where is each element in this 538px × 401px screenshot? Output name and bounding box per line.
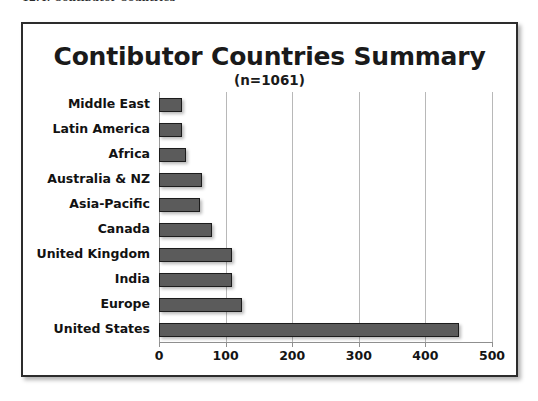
x-tick-label: 300 [346, 350, 372, 363]
x-tick-label: 100 [213, 350, 239, 363]
bar-category-label: United Kingdom [37, 248, 150, 261]
bar-category-label: Australia & NZ [47, 173, 150, 186]
bar-row: Middle East [159, 92, 492, 117]
bar [159, 123, 182, 137]
x-tick-mark-300 [359, 342, 360, 347]
bar-row: Africa [159, 142, 492, 167]
x-tick-mark-0 [159, 342, 160, 347]
page-caption-text: 12.4. Contibutor Countries [22, 0, 175, 3]
x-tick-mark-100 [226, 342, 227, 347]
page-caption-strip: 12.4. Contibutor Countries [0, 0, 538, 10]
bar-category-label: Latin America [53, 123, 150, 136]
bar-category-label: Middle East [68, 98, 150, 111]
bar-category-label: Africa [109, 148, 150, 161]
bar [159, 198, 200, 212]
x-tick-mark-400 [425, 342, 426, 347]
bar [159, 98, 182, 112]
bar [159, 173, 202, 187]
bar-row: United States [159, 317, 492, 342]
gridline-500 [492, 92, 493, 342]
bar-category-label: Asia-Pacific [69, 198, 150, 211]
bar-row: Canada [159, 217, 492, 242]
bar [159, 323, 459, 337]
bar-category-label: India [115, 273, 150, 286]
chart-title: Contibutor Countries Summary [23, 42, 516, 71]
bar-row: India [159, 267, 492, 292]
bar-series: Middle EastLatin AmericaAfricaAustralia … [159, 92, 492, 342]
bar-row: United Kingdom [159, 242, 492, 267]
chart-frame: Contibutor Countries Summary (n=1061) Mi… [21, 22, 518, 377]
x-axis-ticks: 0100200300400500 [159, 342, 492, 368]
bar-row: Australia & NZ [159, 167, 492, 192]
bar-row: Europe [159, 292, 492, 317]
chart-subtitle: (n=1061) [23, 72, 516, 88]
bar [159, 148, 186, 162]
bar-category-label: Europe [100, 298, 150, 311]
bar [159, 248, 232, 262]
bar [159, 298, 242, 312]
x-tick-label: 400 [412, 350, 438, 363]
plot-area: Middle EastLatin AmericaAfricaAustralia … [159, 92, 492, 342]
bar-category-label: United States [54, 323, 150, 336]
bar [159, 223, 212, 237]
x-tick-label: 0 [155, 350, 164, 363]
bar-row: Asia-Pacific [159, 192, 492, 217]
x-tick-mark-200 [292, 342, 293, 347]
bar-category-label: Canada [98, 223, 150, 236]
bar [159, 273, 232, 287]
x-tick-label: 500 [479, 350, 505, 363]
bar-row: Latin America [159, 117, 492, 142]
x-tick-mark-500 [492, 342, 493, 347]
x-tick-label: 200 [279, 350, 305, 363]
